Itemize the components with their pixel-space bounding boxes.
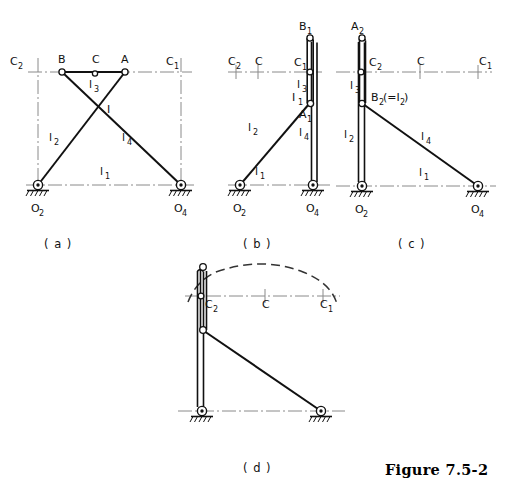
label-l4-b: l [299,126,302,139]
joint-C2-d [198,293,204,299]
label-l1-sub-a: 1 [105,172,110,181]
label-B-a: B [58,53,66,66]
label-O2-sub-c: 2 [363,210,368,219]
ground-support-right-d [309,406,332,422]
subcaption-b: ( b ) [243,237,272,251]
diagram-a-group: C 2 B C A C 1 l 3 I l 2 l 4 l 1 O 2 O 4 [10,53,196,218]
subcaption-c: ( c ) [398,237,426,251]
figure-caption: Figure 7.5-2 [385,461,488,478]
label-A2-sub-c: 2 [359,27,364,36]
joint-B-a [59,69,65,75]
label-C1-right-a: C [166,55,174,68]
joint-C1-b [307,69,313,75]
label-C1-sub-d: 1 [328,305,333,314]
label-l4-sub-c: 4 [426,137,431,146]
label-I1-sub-b: 1 [298,98,303,107]
subcaption-d: ( d ) [243,461,272,475]
label-l2-sub-c: 2 [349,135,354,144]
joint-top-d [200,264,207,271]
joint-A1-I1-b [307,100,313,106]
label-C2-left-sub-b: 2 [236,62,241,71]
label-l3-sub-b: 3 [302,85,307,94]
label-B2-paren-c: (=I [383,91,400,104]
label-l3-sub-c: 3 [355,86,360,95]
label-O2-sub-b: 2 [241,209,246,218]
label-B1-sub-b: 1 [307,27,312,36]
label-l4-sub-a: 4 [127,138,132,147]
label-l4-a: l [122,131,125,144]
ground-support-O2-c [350,181,373,197]
label-l3-b: l [297,78,300,91]
label-C2-d: C [205,298,213,311]
label-I-a: I [107,103,110,116]
label-A-a: A [121,53,129,66]
label-l1-sub-b: 1 [260,172,265,181]
ground-support-O4-a [169,180,192,196]
label-O4-sub-a: 4 [182,209,187,218]
label-C1-c: C [479,55,487,68]
label-C-mid-d: C [262,298,270,311]
label-C2-sub-c: 2 [377,63,382,72]
ground-support-left-d [190,406,213,422]
label-l2-a: l [49,131,52,144]
label-l1-a: l [100,165,103,178]
label-I1-b: I [292,91,295,104]
joint-A-a [122,69,128,75]
label-l4-sub-b: 4 [304,133,309,142]
label-C2-left-sub-a: 2 [18,62,23,71]
joint-B2-I2-c [359,100,365,106]
figure-7-5-2: C 2 B C A C 1 l 3 I l 2 l 4 l 1 O 2 O 4 [0,0,517,500]
ground-support-O2-a [26,180,49,196]
label-A1-b: A [299,108,307,121]
ground-support-O4-c [466,181,489,197]
label-B2-c: B [371,91,379,104]
label-C-top-a: C [92,53,100,66]
subcaption-a: ( a ) [44,237,72,251]
label-A1-sub-b: 1 [307,115,312,124]
label-C1-sub-c: 1 [487,62,492,71]
label-C2-sub-d: 2 [213,305,218,314]
link-l4-a [62,72,181,185]
label-l1-c: l [419,166,422,179]
label-l3-sub-a: 3 [94,85,99,94]
label-C1-right-sub-a: 1 [174,62,179,71]
label-C2-c: C [369,56,377,69]
label-C1-sub-b: 1 [302,63,307,72]
label-O2-sub-a: 2 [39,209,44,218]
label-l2-sub-b: 2 [253,128,258,137]
joint-C-a [92,71,97,76]
label-l1-b: l [255,165,258,178]
label-A2-c: A [351,20,359,33]
diagram-d-group: C 2 C C 1 [178,264,345,422]
label-l2-b: l [248,121,251,134]
link-l4-bar-b [312,42,318,182]
link-l2-a [38,72,125,185]
label-l1-sub-c: 1 [424,173,429,182]
label-O4-sub-c: 4 [479,210,484,219]
label-C-mid-c: C [417,55,425,68]
diagram-b-group: C 2 C B 1 C 1 l 3 I 1 A 1 l 2 l 4 l 1 O … [228,20,330,218]
label-l3-c: l [350,79,353,92]
label-l4-c: l [421,130,424,143]
ground-support-O2-b [228,180,251,196]
label-C2-left-b: C [228,55,236,68]
label-C1-b: C [294,56,302,69]
label-B2-paren-close-c: ) [404,91,408,104]
link-l4-d [204,331,321,411]
ground-support-O4-b [301,180,324,196]
label-l2-c: l [344,128,347,141]
label-C1-d: C [320,298,328,311]
diagram-c-group: A 2 C 2 C C 1 l 3 B 2 (=I 2 ) l 2 l 4 l … [336,20,496,219]
label-O4-sub-b: 4 [314,209,319,218]
label-l3-a: l [89,78,92,91]
label-l2-sub-a: 2 [54,138,59,147]
joint-coupler-d [200,327,207,334]
label-C-mid-b: C [255,55,263,68]
label-C2-left-a: C [10,55,18,68]
joint-C2-c [358,69,364,75]
label-B1-b: B [299,20,307,33]
